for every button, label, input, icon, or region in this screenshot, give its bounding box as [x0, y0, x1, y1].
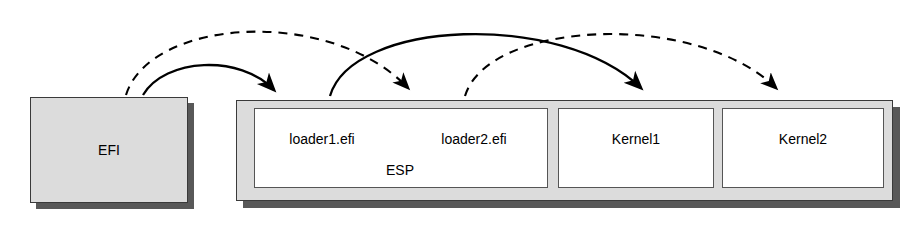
arrow-layer [0, 0, 919, 228]
efi-boot-diagram: EFI loader1.efi loader2.efi ESP Kernel1 … [0, 0, 919, 228]
arrow-efi-to-loader1 [143, 65, 274, 95]
arrow-loader2-to-kernel2 [465, 34, 776, 96]
arrow-loader1-to-kernel1 [330, 34, 641, 96]
arrow-efi-to-loader2 [126, 32, 408, 95]
